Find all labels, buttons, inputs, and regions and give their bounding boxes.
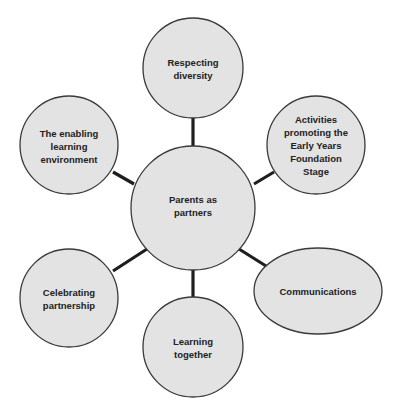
node-label: partnership xyxy=(43,300,95,311)
center-label: partners xyxy=(174,207,212,218)
connector-top-right xyxy=(254,172,274,184)
node-label: Foundation xyxy=(290,153,342,164)
node-learning-together: Learningtogether xyxy=(143,297,243,397)
node-communications: Communications xyxy=(254,248,382,334)
node-label: Activities xyxy=(295,114,337,125)
svg-text:Communications: Communications xyxy=(279,286,356,297)
node-enabling-environment: The enablinglearningenvironment xyxy=(20,96,118,194)
node-label: Communications xyxy=(279,286,356,297)
connector-bottom-right xyxy=(239,249,266,266)
node-label: diversity xyxy=(173,70,213,81)
node-label: environment xyxy=(40,154,98,165)
node-celebrating-partnership: Celebratingpartnership xyxy=(20,249,118,347)
center-label: Parents as xyxy=(169,194,217,205)
node-label: Early Years xyxy=(290,140,341,151)
node-respecting-diversity: Respectingdiversity xyxy=(143,18,243,118)
connector-bottom-left xyxy=(113,249,147,271)
node-label: Respecting xyxy=(167,57,218,68)
node-label: Stage xyxy=(303,166,329,177)
node-center-parents-as-partners: Parents aspartners xyxy=(131,146,255,270)
node-label: Learning xyxy=(173,336,213,347)
node-label: The enabling xyxy=(40,128,99,139)
node-label: learning xyxy=(51,141,88,152)
node-label: promoting the xyxy=(284,127,348,138)
connector-top-left xyxy=(113,172,134,184)
node-label: Celebrating xyxy=(43,287,95,298)
node-activities-eyfs: Activitiespromoting theEarly YearsFounda… xyxy=(267,96,365,194)
node-label: together xyxy=(174,349,212,360)
spider-diagram: Respectingdiversity Activitiespromoting … xyxy=(0,0,399,414)
